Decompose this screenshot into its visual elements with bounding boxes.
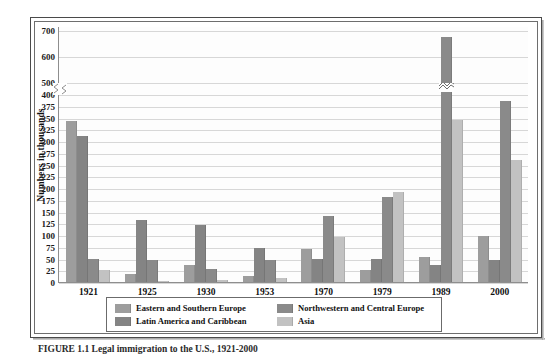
y-axis-tick-label: 275 [42,149,56,158]
legend-swatch-asia [277,317,293,326]
x-axis-tick-label-1921: 1921 [79,287,98,297]
bar-1970-series-2[interactable] [312,259,323,283]
bar-1921-series-4[interactable] [99,270,110,282]
legend-item-label: Eastern and Southern Europe [136,303,246,313]
bar-1925-series-3[interactable] [147,260,158,282]
bar-1921-series-3[interactable] [88,259,99,283]
bar-1953-series-3[interactable] [265,260,276,282]
bar-1979-series-3[interactable] [382,197,393,282]
y-axis-tick-label: 200 [42,185,56,194]
legend-item-label: Latin America and Caribbean [136,316,247,326]
y-axis-tick-label: 225 [42,173,56,182]
legend-item-4[interactable]: Asia [277,315,433,328]
legend-item-3[interactable]: Latin America and Caribbean [115,315,271,328]
bar-group-1953: 1953 [235,27,294,282]
x-axis-tick-label-1989: 1989 [431,287,450,297]
bar-1979-series-2[interactable] [371,259,382,283]
bar-1930-series-1[interactable] [184,265,195,282]
bar-group-1930: 1930 [177,27,236,282]
bar-1921-series-2[interactable] [77,136,88,282]
y-axis-tick-label: 600 [42,53,56,62]
bar-group-1921: 1921 [59,27,118,282]
x-axis-tick-label-2000: 2000 [490,287,509,297]
bar-1979-series-1[interactable] [360,270,371,282]
legend-item-label: Asia [298,316,314,326]
y-axis-tick-label: 75 [46,243,55,252]
y-axis-tick-label: 125 [42,220,56,229]
bar-group-2000: 2000 [470,27,529,282]
bar-group-1925: 1925 [118,27,177,282]
y-axis-tick-label: 175 [42,196,56,205]
y-axis-tick-label: 25 [46,267,55,276]
bar-1925-series-2[interactable] [136,220,147,282]
y-axis-tick-label: 0 [51,279,56,288]
legend-swatch-eastern-southern-europe [115,304,131,313]
legend-swatch-northwestern-central-europe [277,304,293,313]
y-axis-tick-label: 325 [42,126,56,135]
bar-1989-series-2[interactable] [430,265,441,282]
x-axis-tick-label-1925: 1925 [138,287,157,297]
bar-1970-series-1[interactable] [301,249,312,282]
bar-1921-series-1[interactable] [66,121,77,282]
y-axis-tick-label: 375 [42,102,56,111]
bar-1925-series-1[interactable] [125,274,136,282]
bar-group-1979: 1979 [353,27,412,282]
y-axis-tick-label: 350 [42,114,56,123]
bar-2000-series-3[interactable] [500,101,511,282]
y-axis-tick-label: 300 [42,138,56,147]
bar-break-icon [439,83,454,92]
bar-1953-series-4[interactable] [276,278,287,282]
bar-1930-series-4[interactable] [217,280,228,282]
frame-shadow-right [542,20,544,340]
bar-1925-series-4[interactable] [158,281,169,282]
bar-1930-series-3[interactable] [206,269,217,282]
y-axis-tick-label: 250 [42,161,56,170]
bar-1989-series-4[interactable] [452,120,463,282]
chart-legend: Eastern and Southern EuropeNorthwestern … [106,297,442,332]
bar-group-1970: 1970 [294,27,353,282]
bar-1970-series-4[interactable] [334,237,345,282]
legend-item-label: Northwestern and Central Europe [298,303,424,313]
y-axis-tick-label: 100 [42,232,56,241]
figure-caption: FIGURE 1.1 Legal immigration to the U.S.… [38,344,258,354]
x-axis-tick-label-1979: 1979 [373,287,392,297]
bar-1970-series-3[interactable] [323,216,334,282]
y-axis-tick-label: 50 [46,255,55,264]
bar-1953-series-2[interactable] [254,248,265,282]
x-axis-tick-label-1970: 1970 [314,287,333,297]
bar-2000-series-4[interactable] [511,160,522,282]
bar-1989-series-3[interactable] [441,37,452,283]
bar-1930-series-2[interactable] [195,225,206,282]
gridline: 0 [59,283,528,284]
bar-2000-series-2[interactable] [489,260,500,282]
bar-2000-series-1[interactable] [478,236,489,282]
x-axis-tick-label-1930: 1930 [196,287,215,297]
bar-1979-series-4[interactable] [393,192,404,282]
bar-1989-series-1[interactable] [419,257,430,282]
legend-swatch-latin-america-caribbean [115,317,131,326]
y-axis-tick-label: 150 [42,208,56,217]
y-axis-tick-label: 700 [42,27,56,36]
frame-shadow-bottom [33,338,545,340]
bar-group-1989: 1989 [412,27,471,282]
legend-item-2[interactable]: Northwestern and Central Europe [277,302,433,315]
bar-1953-series-1[interactable] [243,276,254,282]
plot-area: 0255075100125150175200225250275300325350… [58,27,528,283]
legend-item-1[interactable]: Eastern and Southern Europe [115,302,271,315]
x-axis-tick-label-1953: 1953 [255,287,274,297]
